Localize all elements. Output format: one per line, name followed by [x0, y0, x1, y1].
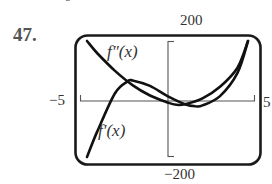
chart: f″(x) f′(x): [0, 0, 272, 184]
f-double-prime-label: f″(x): [107, 42, 138, 61]
f-prime-label: f′(x): [98, 121, 126, 140]
